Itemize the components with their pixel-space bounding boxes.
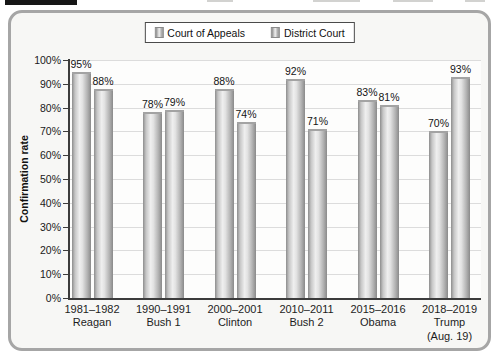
legend-bar-swatch-icon <box>271 27 280 38</box>
bar-district-court <box>380 105 399 298</box>
gridline <box>70 274 481 275</box>
gridline <box>70 60 481 61</box>
x-tick-label: 1981–1982Reagan <box>64 303 119 330</box>
x-tick-president: Bush 2 <box>279 316 333 329</box>
cropped-text-artifact <box>465 0 485 2</box>
cropped-title-bar <box>5 0 77 5</box>
cropped-text-artifact <box>313 0 360 2</box>
x-tick-president: Obama <box>350 316 405 329</box>
y-axis-tick <box>63 108 68 109</box>
cropped-text-artifact <box>393 0 433 2</box>
screenshot-root: { "chart_data": { "type": "bar", "title"… <box>0 0 501 355</box>
y-tick-label: 10% <box>40 268 61 280</box>
x-tick-label: 2015–2016Obama <box>350 303 405 330</box>
y-axis-tick <box>63 203 68 204</box>
bar-district-court <box>308 129 327 298</box>
x-tick-period: 1990–1991 <box>136 303 191 316</box>
gridline <box>70 131 481 132</box>
gridline <box>70 155 481 156</box>
legend: Court of AppealsDistrict Court <box>144 22 354 43</box>
bar-value-label: 95% <box>70 58 91 70</box>
x-tick-label: 2000–2001Clinton <box>207 303 262 330</box>
x-tick-president: Trump <box>422 316 477 329</box>
chart-panel: Court of AppealsDistrict Court Confirmat… <box>8 10 491 351</box>
y-axis-tick <box>63 131 68 132</box>
bar-district-court <box>451 77 470 298</box>
bar-value-label: 88% <box>92 75 113 87</box>
y-tick-label: 100% <box>34 54 61 66</box>
bar-district-court <box>237 122 256 298</box>
x-tick-period: 1981–1982 <box>64 303 119 316</box>
bar-value-label: 71% <box>307 115 328 127</box>
legend-bar-swatch-icon <box>154 27 163 38</box>
x-tick-label: 2010–2011Bush 2 <box>279 303 333 330</box>
x-tick-period: 2015–2016 <box>350 303 405 316</box>
y-tick-label: 80% <box>40 102 61 114</box>
cropped-text-artifact <box>207 0 233 2</box>
bar-value-label: 93% <box>450 63 471 75</box>
legend-label: District Court <box>284 27 345 39</box>
gridline <box>70 250 481 251</box>
y-axis-tick <box>63 60 68 61</box>
y-tick-label: 90% <box>40 78 61 90</box>
legend-label: Court of Appeals <box>167 27 245 39</box>
bar-court-of-appeals <box>72 72 91 298</box>
x-tick-label: 2018–2019Trump(Aug. 19) <box>422 303 477 343</box>
x-tick-president: Clinton <box>207 316 262 329</box>
bar-court-of-appeals <box>215 89 234 298</box>
y-tick-label: 30% <box>40 221 61 233</box>
x-tick-period: 2000–2001 <box>207 303 262 316</box>
plot-area: Confirmation rate 0%10%20%30%40%50%60%70… <box>70 60 481 298</box>
y-tick-label: 70% <box>40 125 61 137</box>
bar-district-court <box>165 110 184 298</box>
x-tick-label: 1990–1991Bush 1 <box>136 303 191 330</box>
y-tick-label: 20% <box>40 244 61 256</box>
bar-value-label: 70% <box>428 117 449 129</box>
x-tick-president: Reagan <box>64 316 119 329</box>
bar-value-label: 79% <box>164 96 185 108</box>
y-axis-tick <box>63 179 68 180</box>
x-axis-line <box>68 298 481 300</box>
bar-value-label: 78% <box>142 98 163 110</box>
y-tick-label: 50% <box>40 173 61 185</box>
bar-court-of-appeals <box>429 131 448 298</box>
gridline <box>70 227 481 228</box>
bar-court-of-appeals <box>358 100 377 298</box>
gridline <box>70 179 481 180</box>
legend-item: District Court <box>271 27 345 39</box>
bar-district-court <box>94 89 113 298</box>
y-tick-label: 0% <box>46 292 61 304</box>
y-axis-tick <box>63 84 68 85</box>
y-tick-label: 60% <box>40 149 61 161</box>
x-tick-note: (Aug. 19) <box>422 330 477 343</box>
bar-value-label: 81% <box>378 91 399 103</box>
y-axis-tick <box>63 274 68 275</box>
y-tick-label: 40% <box>40 197 61 209</box>
bar-value-label: 83% <box>356 86 377 98</box>
gridline <box>70 84 481 85</box>
legend-item: Court of Appeals <box>154 27 245 39</box>
bar-court-of-appeals <box>143 112 162 298</box>
y-axis-title: Confirmation rate <box>18 135 30 223</box>
bar-value-label: 88% <box>213 75 234 87</box>
bar-value-label: 74% <box>235 108 256 120</box>
y-axis-tick <box>63 227 68 228</box>
x-tick-period: 2018–2019 <box>422 303 477 316</box>
gridline <box>70 108 481 109</box>
gridline <box>70 203 481 204</box>
x-tick-period: 2010–2011 <box>279 303 333 316</box>
bar-value-label: 92% <box>285 65 306 77</box>
x-tick-president: Bush 1 <box>136 316 191 329</box>
y-axis-tick <box>63 298 68 299</box>
y-axis-tick <box>63 250 68 251</box>
y-axis-tick <box>63 155 68 156</box>
bar-court-of-appeals <box>286 79 305 298</box>
